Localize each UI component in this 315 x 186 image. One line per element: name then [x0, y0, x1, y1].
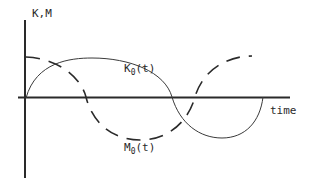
y-axis-label: K,M: [32, 7, 52, 20]
diagram-canvas: K,M time K0(t) M0(t): [0, 0, 315, 186]
k0-label: K0(t): [124, 62, 155, 77]
m0-label: M0(t): [124, 141, 155, 156]
x-axis-label: time: [270, 104, 297, 117]
sinusoid-diagram: K,M time K0(t) M0(t): [0, 0, 315, 186]
